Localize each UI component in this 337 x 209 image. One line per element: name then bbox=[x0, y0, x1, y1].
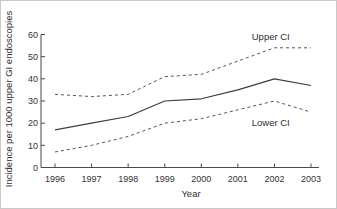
incidence-line-chart: 0102030405060 19961997199819992000200120… bbox=[0, 0, 337, 209]
x-tick-label: 1998 bbox=[118, 174, 138, 184]
y-tick-label: 0 bbox=[33, 163, 38, 173]
x-tick-label: 2000 bbox=[191, 174, 211, 184]
y-tick-label: 40 bbox=[28, 74, 38, 84]
y-tick-label: 20 bbox=[28, 118, 38, 128]
x-tick-label: 1999 bbox=[155, 174, 175, 184]
y-axis-title: Incidence per 1000 upper GI endoscopies bbox=[3, 11, 14, 188]
y-tick-label: 30 bbox=[28, 96, 38, 106]
chart-canvas: 0102030405060 19961997199819992000200120… bbox=[1, 1, 337, 209]
y-tick-label: 60 bbox=[28, 30, 38, 40]
series-line-upper-ci bbox=[55, 48, 311, 97]
x-tick-label: 2002 bbox=[264, 174, 284, 184]
x-tick-label: 1997 bbox=[82, 174, 102, 184]
x-axis-ticks: 19961997199819992000200120022003 bbox=[45, 164, 321, 184]
y-axis-ticks: 0102030405060 bbox=[28, 30, 45, 173]
y-tick-label: 10 bbox=[28, 141, 38, 151]
axes bbox=[41, 35, 319, 168]
x-tick-label: 1996 bbox=[45, 174, 65, 184]
lower-ci-annotation: Lower CI bbox=[252, 117, 290, 128]
x-tick-label: 2001 bbox=[228, 174, 248, 184]
x-axis-title: Year bbox=[181, 188, 200, 199]
data-series bbox=[55, 48, 311, 152]
x-tick-label: 2003 bbox=[301, 174, 321, 184]
y-tick-label: 50 bbox=[28, 52, 38, 62]
upper-ci-annotation: Upper CI bbox=[252, 31, 290, 42]
